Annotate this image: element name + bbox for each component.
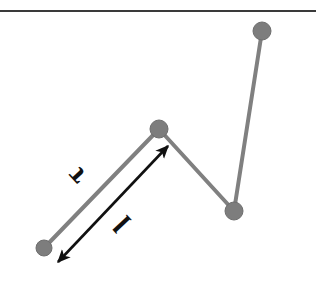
joint-peak [150, 120, 168, 138]
length-double-arrow [58, 146, 168, 262]
figure-root: τ l [0, 0, 324, 288]
linkage-diagram-svg: τ l [0, 0, 324, 288]
label-group: τ l [58, 161, 136, 239]
rod-3 [234, 31, 262, 211]
length-label: l [106, 210, 136, 239]
joint-valley [225, 202, 243, 220]
torque-label: τ [58, 161, 92, 194]
joint-bottom-left [36, 240, 52, 256]
rod-1 [44, 129, 159, 248]
joint-top-right [253, 22, 271, 40]
rod-2 [159, 129, 234, 211]
